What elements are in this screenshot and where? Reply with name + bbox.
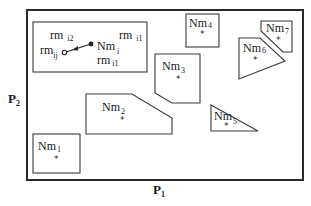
inset-neighborhood-box: rmi2 rmi1 rmij Nmi rmi1 xyxy=(33,22,147,72)
region-nm2-border xyxy=(86,94,172,134)
label-rm-ij: rmij xyxy=(40,43,58,60)
region-nm2-label: Nm2 xyxy=(102,100,125,116)
region-nm1-centroid: * xyxy=(54,154,59,164)
region-nm3-label: Nm3 xyxy=(162,59,185,75)
region-nm4: Nm4 * xyxy=(186,14,219,47)
arrowhead-icon xyxy=(72,46,78,51)
partition-diagram: rmi2 rmi1 rmij Nmi rmi1 Nm4 * xyxy=(0,0,311,206)
neighbor-arrow xyxy=(62,42,93,55)
region-nm1: Nm1 * xyxy=(33,134,80,173)
region-nm4-label: Nm4 xyxy=(189,16,212,30)
label-rm-i2: rmi2 xyxy=(50,28,74,43)
region-nm2: Nm2 * xyxy=(86,94,172,134)
open-circle-icon xyxy=(62,50,66,54)
label-rm-i1-bottom: rmi1 xyxy=(97,53,119,68)
region-nm5: Nm5 * xyxy=(211,105,258,131)
y-axis-label: P2 xyxy=(8,91,20,108)
x-axis-label: P1 xyxy=(153,182,165,199)
region-nm5-centroid: * xyxy=(224,121,229,131)
region-nm7-centroid: * xyxy=(276,35,281,45)
region-nm3: Nm3 * xyxy=(155,54,200,103)
region-nm6-label: Nm6 xyxy=(243,41,266,55)
region-nm4-centroid: * xyxy=(200,29,205,39)
region-nm1-label: Nm1 xyxy=(38,139,61,154)
region-nm7-label: Nm7 xyxy=(266,21,289,36)
arrow-line xyxy=(66,44,91,52)
region-nm2-centroid: * xyxy=(120,115,125,125)
region-nm6-centroid: * xyxy=(253,55,258,65)
label-rm-i1-top: rmi1 xyxy=(119,28,143,43)
region-nm3-centroid: * xyxy=(176,74,181,84)
filled-dot-icon xyxy=(89,42,94,47)
